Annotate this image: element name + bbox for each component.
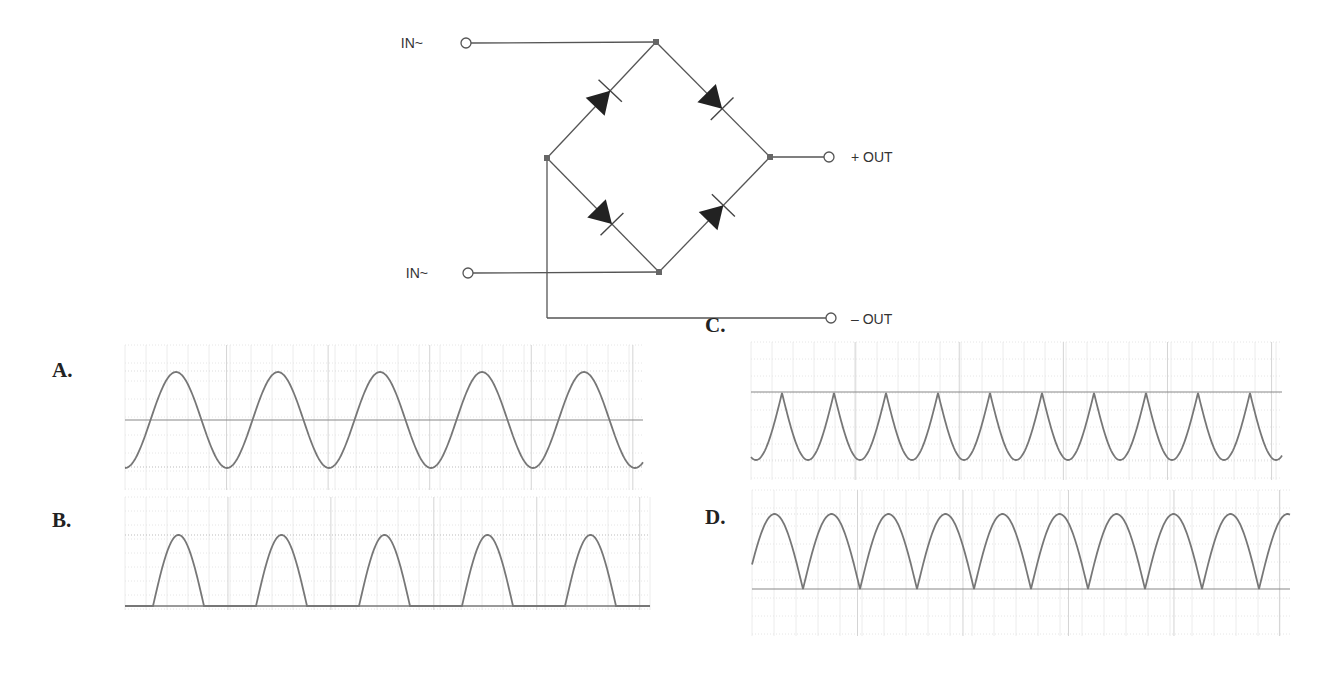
waveform-panels bbox=[125, 342, 1290, 636]
terminal-out-positive bbox=[824, 152, 834, 162]
wire-in-bottom bbox=[473, 272, 659, 273]
junction-node bbox=[656, 269, 662, 275]
waveform-panel-c bbox=[751, 342, 1282, 480]
waveform-panel-a bbox=[125, 345, 643, 490]
option-label-d[interactable]: D. bbox=[705, 505, 725, 530]
terminal-in-bottom bbox=[463, 268, 473, 278]
bridge-rectifier-circuit bbox=[461, 38, 836, 323]
waveform-panel-d bbox=[752, 490, 1290, 636]
terminal-in-top bbox=[461, 38, 471, 48]
oscilloscope-grid bbox=[125, 497, 650, 610]
oscilloscope-grid bbox=[125, 345, 643, 490]
terminal-label-out-negative: – OUT bbox=[851, 311, 893, 327]
terminal-label-in-bottom: IN~ bbox=[406, 265, 428, 281]
junction-node bbox=[544, 155, 550, 161]
waveform-trace bbox=[751, 393, 1282, 460]
wire-in-top bbox=[471, 42, 656, 43]
junction-node bbox=[767, 154, 773, 160]
option-label-c[interactable]: C. bbox=[705, 313, 725, 338]
option-label-a[interactable]: A. bbox=[52, 358, 72, 383]
terminal-out-negative bbox=[826, 313, 836, 323]
terminal-label-out-positive: + OUT bbox=[851, 149, 893, 165]
option-label-b[interactable]: B. bbox=[52, 508, 71, 533]
figure-canvas: IN~ IN~ + OUT – OUT bbox=[0, 0, 1336, 675]
question-figure: IN~ IN~ + OUT – OUT A. B. C. D. bbox=[0, 0, 1336, 675]
waveform-panel-b bbox=[125, 497, 650, 610]
waveform-trace bbox=[752, 514, 1290, 589]
junction-node bbox=[653, 39, 659, 45]
diode-triangle-icon bbox=[586, 91, 611, 116]
terminal-label-in-top: IN~ bbox=[401, 35, 423, 51]
